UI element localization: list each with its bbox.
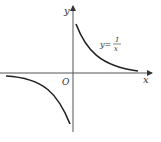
- function-label-lhs: y=: [99, 40, 111, 49]
- origin-label: O: [62, 77, 70, 87]
- y-axis-label: y: [63, 5, 70, 16]
- function-label-numerator: 1: [115, 36, 119, 44]
- x-axis-label: x: [143, 74, 149, 85]
- function-label-denominator: x: [114, 45, 118, 53]
- hyperbola-plot: y x O y= 1 x: [0, 0, 161, 142]
- curve-negative-branch: [6, 76, 70, 124]
